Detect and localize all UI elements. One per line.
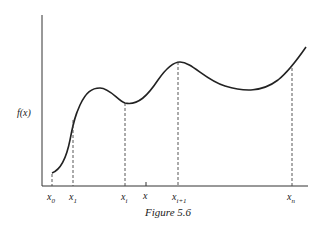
function-curve <box>52 47 306 173</box>
dashed-guides <box>52 62 292 186</box>
tick-label-xi: xi <box>121 191 127 205</box>
tick-label-x0: x0 <box>47 191 55 205</box>
tick-label-xi1: xi+1 <box>172 191 187 205</box>
figure-caption: Figure 5.6 <box>145 206 191 218</box>
tick-label-x: x <box>143 190 147 201</box>
y-axis-label: f(x) <box>17 107 31 118</box>
tick-label-xn: xn <box>287 191 295 205</box>
tick-label-x1: x1 <box>69 191 77 205</box>
